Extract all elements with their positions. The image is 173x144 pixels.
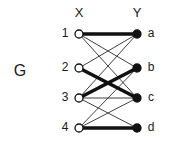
set-label-y: Y [133,5,142,20]
vertex-label-4: 4 [62,120,69,134]
bipartite-graph-figure: G X Y 1234abcd [0,0,173,144]
graph-vertex-a[interactable] [133,30,141,38]
graph-canvas: G X Y 1234abcd [0,0,173,144]
vertex-label-2: 2 [62,60,69,74]
vertex-label-d: d [148,120,155,134]
graph-name-label: G [14,62,26,79]
vertex-label-a: a [148,26,155,40]
graph-vertex-b[interactable] [133,64,141,72]
edge-layer [79,34,137,128]
vertex-label-3: 3 [62,90,69,104]
graph-vertex-1[interactable] [75,30,83,38]
graph-vertex-4[interactable] [75,124,83,132]
set-label-x: X [75,5,84,20]
vertex-label-c: c [148,90,154,104]
vertex-label-1: 1 [62,26,69,40]
vertex-label-b: b [148,60,155,74]
graph-vertex-2[interactable] [75,64,83,72]
graph-vertex-c[interactable] [133,94,141,102]
graph-vertex-d[interactable] [133,124,141,132]
graph-vertex-3[interactable] [75,94,83,102]
